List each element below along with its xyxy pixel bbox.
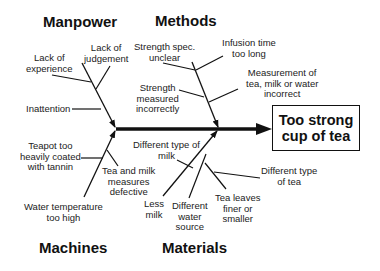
effect-line-2: cup of tea [279, 128, 354, 144]
branch-type-tea [214, 172, 260, 178]
effect-box: Too strong cup of tea [272, 105, 360, 151]
cause-tea-leaves: Tea leaves finer or smaller [215, 193, 260, 225]
category-methods: Methods [155, 12, 217, 29]
category-materials: Materials [162, 239, 227, 256]
cause-type-tea: Different type of tea [261, 166, 317, 187]
cause-tea-milk-measures: Tea and milk measures defective [102, 166, 155, 198]
cause-strength-measured: Strength measured incorrectly [136, 83, 179, 115]
branch-strength-measured [179, 90, 204, 97]
cause-teapot: Teapot too heavily coated with tannin [20, 141, 81, 173]
rib-manpower [82, 63, 115, 127]
cause-water-source: Different water source [172, 201, 208, 233]
branch-strength-spec [163, 63, 195, 70]
category-manpower: Manpower [43, 13, 117, 30]
category-machines: Machines [39, 239, 107, 256]
cause-infusion-time: Infusion time too long [222, 38, 276, 59]
cause-type-milk: Different type of milk [133, 140, 200, 161]
cause-lack-experience: Lack of experience [26, 53, 72, 74]
cause-lack-judgement: Lack of judgement [84, 43, 128, 64]
branch-tea-milk-measures [107, 150, 118, 166]
cause-less-milk: Less milk [144, 199, 164, 220]
cause-water-temp: Water temperature too high [24, 202, 103, 223]
branch-tea-leaves [205, 163, 226, 189]
branch-lack-experience [52, 75, 91, 82]
cause-strength-spec: Strength spec. unclear [134, 42, 195, 63]
cause-measurement: Measurement of tea, milk or water incorr… [246, 68, 318, 100]
effect-line-1: Too strong [279, 112, 354, 128]
branch-measurement [209, 89, 238, 102]
cause-inattention: Inattention [26, 104, 70, 115]
spine-arrowhead [256, 123, 272, 135]
branch-infusion-time [196, 56, 223, 70]
branch-type-milk [177, 160, 193, 168]
branch-lack-judgement [96, 66, 110, 89]
